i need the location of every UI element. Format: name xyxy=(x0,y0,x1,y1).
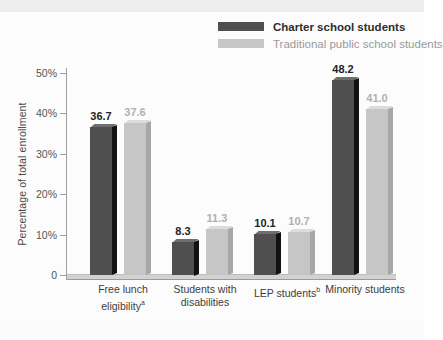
x-category-line-2-text: eligibility xyxy=(101,300,141,312)
bar-traditional-lep[interactable]: 10.7 xyxy=(288,232,310,275)
bar-side-face xyxy=(310,230,315,275)
bar-side-face xyxy=(276,232,281,275)
y-tick-40 xyxy=(60,113,66,114)
x-category-minority: Minority students xyxy=(305,283,425,296)
bar-front-face xyxy=(332,80,354,275)
bar-side-face xyxy=(388,107,393,275)
bar-value-label: 10.1 xyxy=(254,217,275,229)
bar-side-face xyxy=(228,227,233,275)
bar-side-face xyxy=(112,125,117,275)
y-tick-10 xyxy=(60,235,66,236)
axis-baseline xyxy=(67,279,396,280)
bar-value-label: 36.7 xyxy=(90,110,111,122)
bar-front-face xyxy=(366,109,388,275)
bar-front-face xyxy=(172,242,194,276)
bar-charter-lep[interactable]: 10.1 xyxy=(254,234,276,275)
y-axis-line xyxy=(66,68,67,280)
bar-traditional-free-lunch[interactable]: 37.6 xyxy=(124,123,146,275)
bar-value-label: 41.0 xyxy=(366,92,387,104)
bar-side-face xyxy=(354,78,359,275)
bar-charter-minority[interactable]: 48.2 xyxy=(332,80,354,275)
bar-front-face xyxy=(206,229,228,275)
bar-value-label: 10.7 xyxy=(288,215,309,227)
bar-value-label: 11.3 xyxy=(207,212,228,224)
bar-value-label: 37.6 xyxy=(124,106,145,118)
bar-front-face xyxy=(288,232,310,275)
x-category-line-1: Minority students xyxy=(305,283,425,296)
bar-front-face xyxy=(90,127,112,275)
bar-charter-disabilities[interactable]: 8.3 xyxy=(172,242,194,276)
bar-front-face xyxy=(124,123,146,275)
bar-group-free-lunch: 36.7 37.6 xyxy=(90,68,154,275)
bar-group-disabilities: 8.3 11.3 xyxy=(172,68,236,275)
y-tick-label-40: 40% xyxy=(36,107,57,119)
y-tick-20 xyxy=(60,194,66,195)
bottom-band xyxy=(0,324,424,340)
bar-side-face xyxy=(146,121,151,275)
top-band xyxy=(0,0,424,12)
bar-value-label: 8.3 xyxy=(175,225,190,237)
chart-legend: Charter school students Traditional publ… xyxy=(218,18,443,52)
y-tick-50 xyxy=(60,73,66,74)
bar-group-lep: 10.1 10.7 xyxy=(254,68,318,275)
bar-traditional-disabilities[interactable]: 11.3 xyxy=(206,229,228,275)
legend-label-charter: Charter school students xyxy=(273,21,405,33)
y-tick-label-50: 50% xyxy=(36,67,57,79)
bar-traditional-minority[interactable]: 41.0 xyxy=(366,109,388,275)
y-tick-label-20: 20% xyxy=(36,188,57,200)
y-tick-label-10: 10% xyxy=(36,229,57,241)
y-axis-title: Percentage of total enrollment xyxy=(16,89,28,259)
bar-front-face xyxy=(254,234,276,275)
plot-area: 50% 40% 30% 20% 10% 0 36.7 37.6 xyxy=(66,68,396,280)
bar-charter-free-lunch[interactable]: 36.7 xyxy=(90,127,112,275)
y-tick-label-0: 0 xyxy=(51,269,57,281)
legend-swatch-charter xyxy=(218,22,264,31)
legend-swatch-traditional xyxy=(218,39,264,48)
legend-label-traditional: Traditional public school students xyxy=(273,38,443,50)
bar-value-label: 48.2 xyxy=(332,63,353,75)
y-tick-0 xyxy=(60,275,66,276)
y-tick-30 xyxy=(60,154,66,155)
y-tick-label-30: 30% xyxy=(36,148,57,160)
legend-item-traditional: Traditional public school students xyxy=(218,35,443,52)
bar-side-face xyxy=(194,239,199,275)
legend-item-charter: Charter school students xyxy=(218,18,443,35)
bar-group-minority: 48.2 41.0 xyxy=(332,68,396,275)
